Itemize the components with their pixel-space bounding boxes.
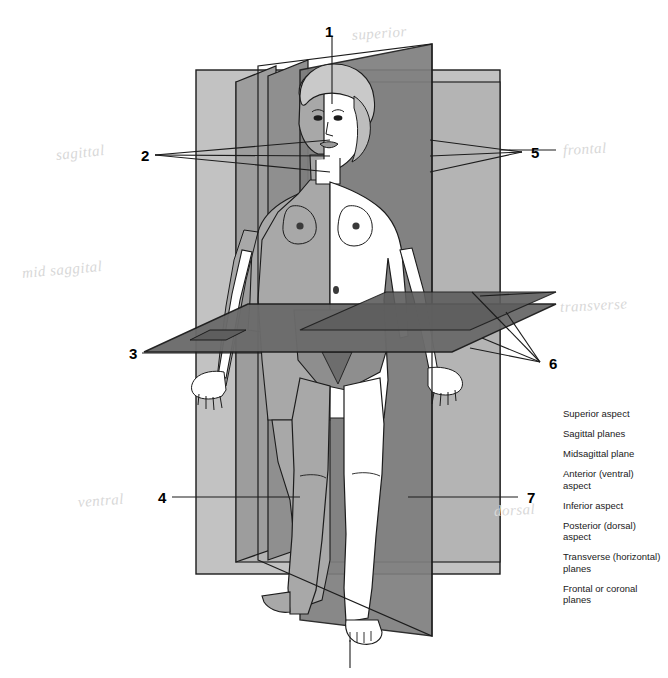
number-label-4: 4 xyxy=(158,490,166,505)
handwritten-note-ventral: ventral xyxy=(77,492,124,510)
plane-terms-legend: Superior aspect Sagittal planes Midsagit… xyxy=(563,408,663,614)
legend-item-superior-aspect: Superior aspect xyxy=(563,408,663,420)
legend-item-anterior-aspect: Anterior (ventral) aspect xyxy=(563,468,663,491)
handwritten-note-dorsal: dorsal xyxy=(494,502,536,519)
legend-item-frontal-planes: Frontal or coronal planes xyxy=(563,583,663,606)
legend-item-posterior-aspect: Posterior (dorsal) aspect xyxy=(563,520,663,543)
number-label-5: 5 xyxy=(531,145,539,160)
legend-item-sagittal-planes: Sagittal planes xyxy=(563,428,663,440)
legend-item-transverse-planes: Transverse (horizontal) planes xyxy=(563,551,663,574)
legend-item-inferior-aspect: Inferior aspect xyxy=(563,500,663,512)
handwritten-note-frontal: frontal xyxy=(563,141,608,158)
number-label-6: 6 xyxy=(549,356,557,371)
number-label-3: 3 xyxy=(129,346,137,361)
legend-item-midsagittal-plane: Midsagittal plane xyxy=(563,448,663,460)
number-label-2: 2 xyxy=(141,148,149,163)
diagram-canvas: 1 2 3 4 5 6 7 superior sagittal mid sagg… xyxy=(0,0,668,678)
number-label-1: 1 xyxy=(325,24,333,39)
